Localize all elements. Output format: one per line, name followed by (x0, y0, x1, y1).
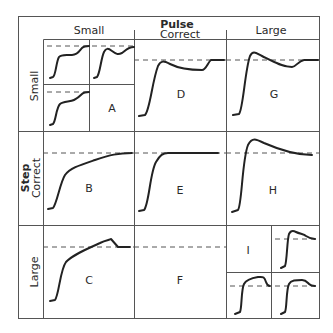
row-header-large: Large (28, 256, 41, 287)
curve-h (232, 140, 312, 213)
cell-label-d: D (177, 88, 185, 101)
curve-a1 (50, 46, 89, 78)
curve-i1 (281, 231, 315, 268)
curve-e (139, 153, 218, 211)
curve-i3 (281, 280, 315, 314)
curve-c (50, 239, 130, 301)
col-header-large: Large (256, 24, 287, 37)
row-header-correct: Correct (30, 157, 43, 198)
cell-label-h: H (269, 184, 277, 197)
curve-a2 (94, 47, 134, 78)
curve-g (233, 53, 318, 115)
pulse-step-response-diagram: Pulse Small Correct Large Small Step Cor… (0, 0, 333, 333)
curve-b (48, 153, 132, 209)
cell-label-e: E (177, 184, 184, 197)
col-header-small: Small (74, 24, 105, 37)
cell-label-a: A (108, 102, 116, 115)
cell-label-i: I (246, 244, 249, 257)
cell-label-f: F (177, 274, 183, 287)
row-header-small: Small (28, 71, 41, 102)
curve-i2 (235, 277, 270, 314)
col-header-correct: Correct (160, 28, 201, 41)
curve-a3 (50, 92, 89, 125)
cell-label-c: C (85, 274, 93, 287)
cell-label-g: G (270, 88, 279, 101)
cell-label-b: B (85, 182, 93, 195)
